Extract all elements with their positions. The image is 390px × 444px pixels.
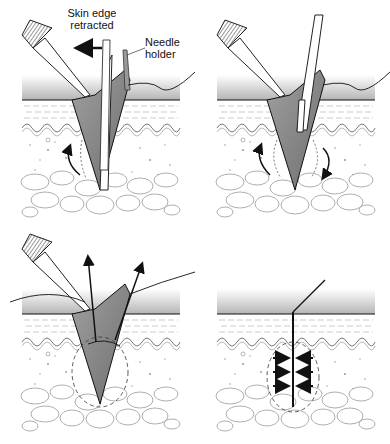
label-line: Skin edge [62, 7, 122, 19]
panel-step-4 [195, 222, 390, 444]
suture-step-3-illustration [0, 222, 195, 444]
panel-step-1: Skin edge retracted Needle holder [0, 0, 195, 222]
panel-step-2 [195, 0, 390, 222]
suture-step-1-illustration [0, 0, 195, 222]
suture-step-4-illustration [195, 222, 390, 444]
label-line: retracted [62, 19, 122, 31]
label-needle-holder: Needle holder [145, 36, 190, 60]
label-line: Needle [145, 36, 190, 48]
panel-step-3 [0, 222, 195, 444]
label-line: holder [145, 48, 190, 60]
label-skin-edge-retracted: Skin edge retracted [62, 7, 122, 31]
suture-step-2-illustration [195, 0, 390, 222]
